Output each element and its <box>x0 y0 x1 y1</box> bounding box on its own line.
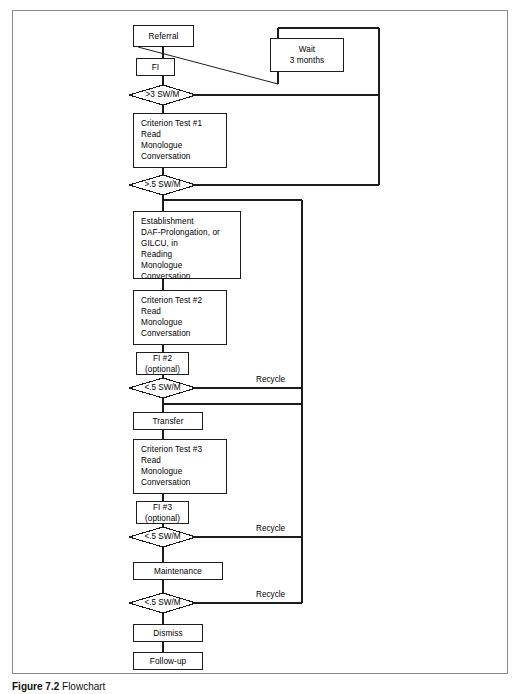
figure-caption-label: Figure 7.2 <box>12 681 59 692</box>
node-dismiss: Dismiss <box>133 624 203 642</box>
decision-label-lt05-swm-1: <.5 SW/M <box>129 383 196 393</box>
figure-page: Referral FI Wait 3 months >3 SW/M Criter… <box>0 0 516 694</box>
edge-label-recycle-2: Recycle <box>256 524 285 534</box>
node-establishment: Establishment DAF-Prolongation, or GILCU… <box>133 211 241 279</box>
node-fi-1: FI <box>136 58 175 76</box>
figure-caption: Figure 7.2 Flowchart <box>12 681 105 692</box>
decision-label-lt05-swm-3: <.5 SW/M <box>129 598 196 608</box>
node-follow-up: Follow-up <box>133 652 203 670</box>
node-maintenance: Maintenance <box>133 562 223 580</box>
node-criterion-test-2: Criterion Test #2 Read Monologue Convers… <box>133 290 227 345</box>
node-wait-3-months: Wait 3 months <box>270 38 344 72</box>
node-fi-3-optional: FI #3 (optional) <box>136 501 189 524</box>
node-fi-2-optional: FI #2 (optional) <box>136 352 189 375</box>
decision-label-gt05-swm: >.5 SW/M <box>129 180 196 190</box>
node-referral: Referral <box>133 25 194 47</box>
figure-caption-text: Flowchart <box>62 681 105 692</box>
node-transfer: Transfer <box>133 412 203 430</box>
decision-label-gt3-swm: >3 SW/M <box>129 90 196 100</box>
node-criterion-test-3: Criterion Test #3 Read Monologue Convers… <box>133 439 227 494</box>
node-criterion-test-1: Criterion Test #1 Read Monologue Convers… <box>133 113 227 168</box>
edge-label-recycle-3: Recycle <box>256 590 285 600</box>
decision-label-lt05-swm-2: <.5 SW/M <box>129 532 196 542</box>
edge-label-recycle-1: Recycle <box>256 375 285 385</box>
